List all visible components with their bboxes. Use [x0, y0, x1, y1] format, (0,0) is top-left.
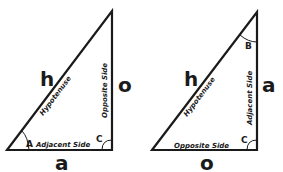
right-triangle: B C Opposite Side Hypotenuse Adjacent Si…	[152, 12, 276, 172]
triangle-diagram: A C Adjacent Side Hypotenuse Opposite Si…	[0, 0, 283, 172]
opposite-letter-right: o	[200, 151, 214, 172]
opposite-letter-left: o	[118, 73, 132, 97]
angle-a-label: A	[26, 139, 33, 149]
adjacent-letter-left: a	[55, 151, 69, 172]
angle-b-label: B	[245, 41, 252, 51]
adjacent-side-label-right: Adjacent Side	[246, 71, 254, 126]
angle-c-arc-right	[247, 140, 257, 150]
opposite-side-label-right: Opposite Side	[174, 142, 229, 150]
adjacent-letter-right: a	[262, 73, 276, 97]
right-triangle-outline	[152, 12, 257, 150]
angle-c-label-right: C	[241, 135, 248, 145]
angle-c-label-left: C	[96, 134, 103, 144]
hypotenuse-letter-right: h	[184, 67, 198, 91]
left-triangle-outline	[7, 11, 112, 150]
opposite-side-label-left: Opposite Side	[101, 63, 109, 118]
left-triangle: A C Adjacent Side Hypotenuse Opposite Si…	[7, 11, 132, 172]
hypotenuse-letter-left: h	[40, 67, 54, 91]
adjacent-side-label-left: Adjacent Side	[35, 141, 90, 149]
angle-c-arc-left	[102, 140, 112, 150]
